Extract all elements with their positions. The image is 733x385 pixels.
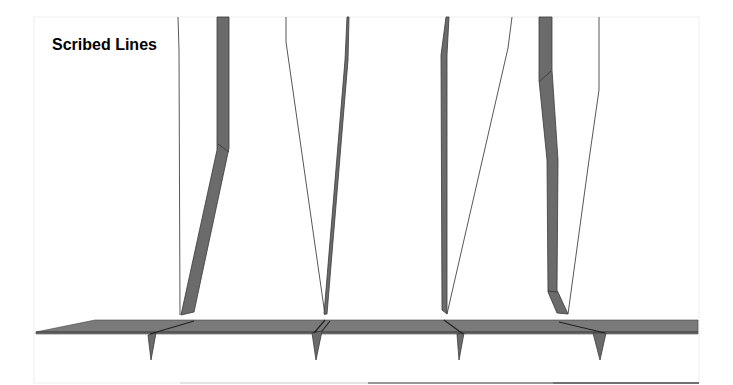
tool-1 — [178, 17, 229, 315]
groove-3-v — [457, 333, 464, 360]
groove-2-v — [312, 331, 322, 360]
figure-title: Scribed Lines — [52, 36, 157, 54]
tool-4-wire — [568, 17, 599, 314]
tool-4-blade — [539, 17, 568, 314]
tool-4 — [539, 17, 599, 314]
tool-3-wire — [447, 17, 512, 314]
tool-2 — [286, 17, 349, 315]
tool-3 — [441, 17, 512, 314]
tool-3-blade — [441, 17, 449, 314]
tool-2-blade — [324, 17, 349, 314]
tool-1-blade — [181, 17, 229, 315]
scribed-lines-diagram — [0, 0, 733, 385]
groove-1-v — [148, 333, 156, 360]
tool-1-wire — [178, 17, 180, 315]
groove-4-v — [593, 333, 606, 360]
tool-2-wire — [286, 17, 325, 315]
